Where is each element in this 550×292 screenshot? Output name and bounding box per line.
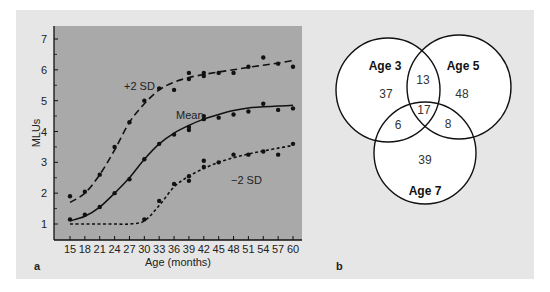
x-axis-title: Age (months) — [145, 256, 211, 268]
data-point — [157, 142, 161, 146]
data-point — [261, 102, 265, 106]
x-tick-label: 21 — [94, 243, 106, 255]
data-point — [231, 112, 235, 116]
data-point — [202, 159, 206, 163]
data-point — [142, 217, 146, 221]
data-point — [246, 65, 250, 69]
data-point — [127, 177, 131, 181]
x-tick-label: 18 — [79, 243, 91, 255]
data-point — [172, 88, 176, 92]
x-tick-label: 45 — [213, 243, 225, 255]
data-point — [187, 71, 191, 75]
y-tick-label: 1 — [41, 218, 47, 230]
data-point — [261, 149, 265, 153]
y-tick-label: 7 — [41, 33, 47, 45]
x-tick-label: 27 — [123, 243, 135, 255]
venn-value-age5-age7: 8 — [445, 117, 452, 131]
venn-value-age3-only: 37 — [379, 87, 393, 101]
data-point — [112, 145, 116, 149]
venn-label-age5: Age 5 — [447, 59, 480, 73]
x-tick-label: 15 — [64, 243, 76, 255]
venn-value-age7-only: 39 — [418, 153, 432, 167]
data-point — [68, 194, 72, 198]
venn-value-all-three: 17 — [417, 103, 431, 117]
y-tick-label: 2 — [41, 187, 47, 199]
data-point — [83, 189, 87, 193]
data-point — [246, 152, 250, 156]
data-point — [261, 55, 265, 59]
data-point — [187, 77, 191, 81]
data-point — [231, 71, 235, 75]
y-tick-label: 6 — [41, 64, 47, 76]
data-point — [202, 71, 206, 75]
venn-diagram: Age 3 Age 5 Age 7 37 48 13 17 6 8 39 — [336, 35, 511, 204]
x-tick-label: 33 — [153, 243, 165, 255]
x-tick-label: 36 — [168, 243, 180, 255]
panel-label-b: b — [336, 260, 343, 272]
data-point — [276, 152, 280, 156]
venn-label-age7: Age 7 — [409, 184, 442, 198]
data-point — [98, 205, 102, 209]
data-point — [291, 65, 295, 69]
data-point — [216, 115, 220, 119]
data-point — [98, 172, 102, 176]
x-tick-label: 54 — [257, 243, 269, 255]
data-point — [83, 213, 87, 217]
data-point — [216, 71, 220, 75]
x-tick-label: 57 — [272, 243, 284, 255]
data-point — [157, 199, 161, 203]
data-point — [291, 106, 295, 110]
venn-value-age3-age7: 6 — [395, 118, 402, 132]
data-point — [276, 61, 280, 65]
data-point — [112, 191, 116, 195]
data-point — [276, 108, 280, 112]
venn-label-age3: Age 3 — [369, 59, 402, 73]
data-point — [127, 120, 131, 124]
panel-label-a: a — [34, 260, 41, 272]
series-label-minus2sd: −2 SD — [231, 174, 262, 186]
data-point — [142, 98, 146, 102]
data-point — [187, 125, 191, 129]
x-tick-label: 30 — [138, 243, 150, 255]
x-tick-label: 60 — [287, 243, 299, 255]
x-tick-label: 48 — [227, 243, 239, 255]
data-point — [231, 152, 235, 156]
venn-value-age5-only: 48 — [455, 87, 469, 101]
data-point — [172, 182, 176, 186]
data-point — [68, 217, 72, 221]
data-point — [157, 86, 161, 90]
data-point — [187, 174, 191, 178]
x-tick-label: 24 — [108, 243, 120, 255]
x-tick-label: 42 — [198, 243, 210, 255]
series-label-plus2sd: +2 SD — [124, 80, 155, 92]
data-point — [142, 157, 146, 161]
figure-svg: 1234567 15182124273033363942454851545760… — [0, 0, 550, 292]
y-tick-label: 5 — [41, 95, 47, 107]
y-tick-label: 3 — [41, 156, 47, 168]
x-tick-label: 39 — [183, 243, 195, 255]
data-point — [202, 165, 206, 169]
data-point — [246, 109, 250, 113]
venn-value-age3-age5: 13 — [416, 73, 430, 87]
x-tick-label: 51 — [242, 243, 254, 255]
data-point — [216, 160, 220, 164]
y-axis-title: MLUs — [30, 118, 42, 147]
data-point — [187, 179, 191, 183]
series-label-mean: Mean — [176, 109, 204, 121]
data-point — [172, 132, 176, 136]
data-point — [291, 142, 295, 146]
